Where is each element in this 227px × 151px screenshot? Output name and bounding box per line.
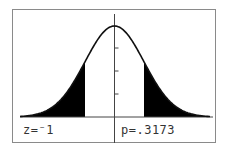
- right-tail-shading: [144, 62, 210, 117]
- z-value-readout: z=⁻1: [23, 123, 54, 137]
- left-tail-shading: [20, 62, 85, 117]
- y-axis-ticks: [115, 48, 119, 94]
- p-value-readout: p=.3173: [121, 123, 175, 137]
